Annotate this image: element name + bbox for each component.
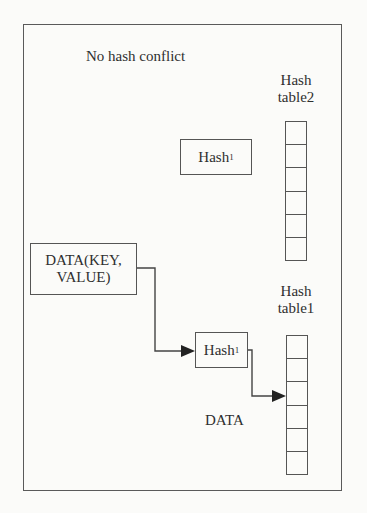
hash-table1-label: Hash table1 <box>276 283 316 317</box>
hash-table2-label: Hash table2 <box>276 72 316 106</box>
hash-table1-cell <box>287 382 307 405</box>
hash-function-subscript: 1 <box>235 342 240 359</box>
hash-table2-cell <box>286 122 306 145</box>
data-box-line2: VALUE) <box>57 269 111 286</box>
hash-table1-cell <box>287 336 307 359</box>
data-label: DATA <box>205 412 244 429</box>
hash-table1-cell <box>287 359 307 382</box>
hash-table2-cell <box>286 215 306 238</box>
hash-table1-label-line2: table1 <box>276 300 316 317</box>
hash-function-label: Hash <box>204 342 235 359</box>
hash-table2-label-line1: Hash <box>276 72 316 89</box>
hash-table1-cell <box>287 429 307 452</box>
hash-table1-label-line1: Hash <box>276 283 316 300</box>
hash-table2-label-line2: table2 <box>276 89 316 106</box>
hash-table2-cell <box>286 168 306 191</box>
hash-table2 <box>285 121 307 261</box>
hash-table1 <box>286 335 308 475</box>
data-key-value-box: DATA(KEY, VALUE) <box>30 243 137 295</box>
hash-table1-cell <box>287 452 307 474</box>
hash-table1-cell <box>287 406 307 429</box>
hash-function-box-lower: Hash1 <box>195 332 248 368</box>
diagram-title: No hash conflict <box>86 48 185 65</box>
hash-table2-cell <box>286 192 306 215</box>
hash-table2-cell <box>286 238 306 260</box>
data-box-line1: DATA(KEY, <box>45 252 121 269</box>
hash-table2-cell <box>286 145 306 168</box>
hash-function-box-upper: Hash1 <box>180 139 252 175</box>
hash-function-subscript: 1 <box>229 149 234 166</box>
hash-function-label: Hash <box>198 149 229 166</box>
